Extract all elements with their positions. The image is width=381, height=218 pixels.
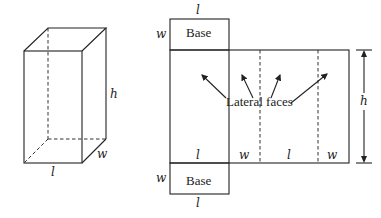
prism-length-label: l [51, 165, 55, 179]
lateral-width-label-2: w [327, 148, 338, 162]
prism-height-label: h [110, 87, 118, 101]
rectangular-prism: h w l [24, 28, 118, 179]
prism-net: Base l w Lateral faces l w l w h Base w … [156, 3, 372, 210]
prism-width-label: w [97, 147, 108, 161]
bottom-base-label: Base [186, 173, 212, 188]
top-base-width-label: w [156, 27, 167, 41]
top-base-label: Base [186, 25, 212, 40]
bottom-base-width-label: w [156, 171, 167, 185]
lateral-length-label-1: l [196, 148, 200, 162]
lateral-length-label-2: l [287, 148, 291, 162]
bottom-base-length-label: l [196, 196, 200, 210]
lateral-faces-label: Lateral faces [226, 94, 293, 109]
top-base-length-label: l [196, 3, 200, 17]
rectangular-prism-and-net-diagram: h w l Base l w Lateral faces l w l w h [0, 0, 381, 218]
lateral-width-label-1: w [239, 148, 250, 162]
net-height-label: h [360, 94, 368, 108]
